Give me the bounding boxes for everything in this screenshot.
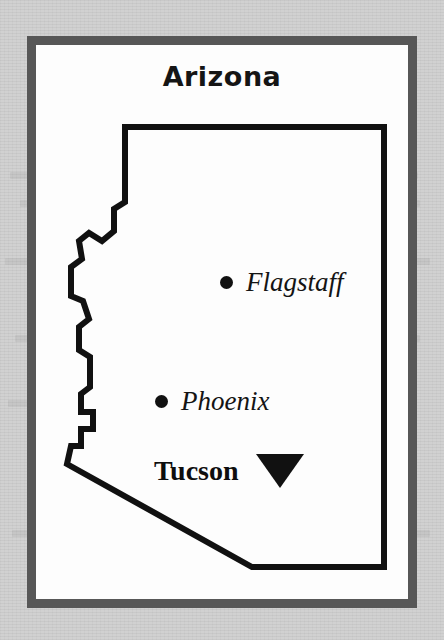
- city-label-phoenix: Phoenix: [181, 388, 269, 415]
- city-flagstaff[interactable]: Flagstaff: [220, 269, 344, 296]
- arizona-state-outline: [36, 45, 408, 599]
- map-canvas: Arizona Flagstaff Phoenix Tucson: [36, 45, 408, 599]
- city-label-tucson: Tucson: [154, 457, 239, 485]
- triangle-marker-icon: [256, 454, 304, 488]
- city-phoenix[interactable]: Phoenix: [155, 388, 269, 415]
- city-tucson[interactable]: Tucson: [154, 454, 304, 488]
- map-frame: Arizona Flagstaff Phoenix Tucson: [27, 36, 417, 608]
- city-label-flagstaff: Flagstaff: [246, 269, 344, 296]
- dot-marker-icon: [155, 395, 168, 408]
- dot-marker-icon: [220, 276, 233, 289]
